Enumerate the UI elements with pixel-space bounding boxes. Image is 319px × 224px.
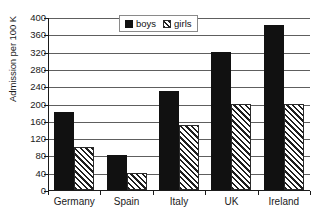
y-axis-tick-labels: 04080120160200240280320360400 xyxy=(20,13,46,191)
x-axis-tick-mark xyxy=(100,191,101,195)
bar-ireland-girls xyxy=(284,104,304,191)
y-axis-tick-label: 200 xyxy=(20,100,46,110)
chart-legend: boys girls xyxy=(119,15,198,32)
y-axis-title: Admission per 100 K xyxy=(7,0,21,119)
legend-entry-girls: girls xyxy=(163,19,191,29)
bar-chart: Admission per 100 K 04080120160200240280… xyxy=(0,0,319,224)
bar-germany-girls xyxy=(74,147,94,190)
y-axis-tick-label: 40 xyxy=(20,169,46,179)
x-axis-label-italy: Italy xyxy=(153,196,205,208)
y-axis-tick-label: 320 xyxy=(20,48,46,58)
x-axis-tick-mark xyxy=(205,191,206,195)
bar-spain-boys xyxy=(107,155,127,190)
bar-uk-boys xyxy=(211,52,231,190)
y-axis-line xyxy=(48,18,49,191)
bar-spain-girls xyxy=(127,173,147,190)
x-axis-label-ireland: Ireland xyxy=(258,196,310,208)
y-axis-tick-label: 120 xyxy=(20,134,46,144)
y-axis-tick-label: 80 xyxy=(20,151,46,161)
x-axis-label-spain: Spain xyxy=(100,196,152,208)
y-axis-tick-label: 400 xyxy=(20,13,46,23)
x-axis-tick-mark xyxy=(258,191,259,195)
x-axis-category-labels: GermanySpainItalyUKIreland xyxy=(48,196,310,212)
bar-italy-girls xyxy=(179,125,199,190)
y-axis-tick-label: 360 xyxy=(20,30,46,40)
x-axis-label-uk: UK xyxy=(205,196,257,208)
legend-entry-boys: boys xyxy=(125,19,156,29)
legend-label-boys: boys xyxy=(136,19,156,29)
legend-label-girls: girls xyxy=(174,19,191,29)
y-axis-tick-label: 280 xyxy=(20,65,46,75)
legend-swatch-boys-icon xyxy=(125,20,133,28)
y-axis-tick-label: 240 xyxy=(20,82,46,92)
x-axis-label-germany: Germany xyxy=(48,196,100,208)
y-axis-tick-label: 0 xyxy=(20,186,46,196)
legend-swatch-girls-icon xyxy=(163,20,171,28)
x-axis-tick-mark xyxy=(48,191,49,195)
plot-area xyxy=(48,18,310,191)
x-axis-tick-mark xyxy=(153,191,154,195)
x-axis-line xyxy=(48,190,310,191)
bar-italy-boys xyxy=(159,91,179,190)
y-axis-tick-label: 160 xyxy=(20,117,46,127)
x-axis-tick-mark xyxy=(310,191,311,195)
bar-uk-girls xyxy=(231,104,251,191)
bar-germany-boys xyxy=(54,112,74,190)
bar-ireland-boys xyxy=(264,25,284,190)
